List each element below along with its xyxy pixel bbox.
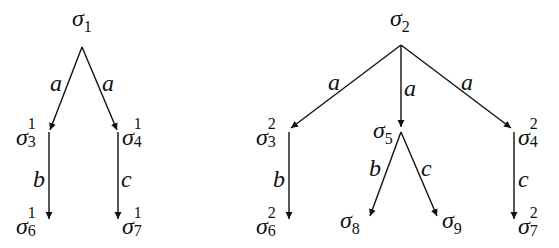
edge-label-a-mid-t2: a — [404, 76, 416, 100]
node-sigma4-1: σ14 — [122, 125, 146, 149]
edge-label-a-left-t1: a — [50, 71, 62, 95]
node-sigma5: σ5 — [373, 118, 393, 147]
edge-label-c-t1: c — [121, 167, 132, 191]
edge-label-a-right-t2: a — [461, 70, 473, 94]
node-sigma2: σ2 — [390, 6, 410, 35]
edge-label-c-right-t2: c — [518, 167, 529, 191]
edge-label-c-mid-t2: c — [421, 156, 432, 180]
edge-s2-s4 — [401, 45, 511, 128]
edge-s2-s3 — [291, 45, 401, 128]
node-sigma4-2: σ24 — [518, 125, 542, 149]
node-sigma1: σ1 — [72, 6, 92, 35]
node-sigma7-2: σ27 — [518, 214, 542, 238]
node-sigma7-1: σ17 — [122, 214, 146, 238]
node-sigma8: σ8 — [340, 208, 360, 237]
edge-label-a-right-t1: a — [102, 71, 114, 95]
node-sigma6-1: σ16 — [16, 214, 40, 238]
edge-label-a-left-t2: a — [328, 70, 340, 94]
node-sigma3-2: σ23 — [256, 125, 280, 149]
edge-label-b-t1: b — [33, 167, 45, 191]
edge-label-b-mid-t2: b — [369, 156, 381, 180]
node-sigma3-1: σ13 — [16, 125, 40, 149]
node-sigma9: σ9 — [442, 208, 462, 237]
edge-label-b-left-t2: b — [273, 167, 285, 191]
node-sigma6-2: σ26 — [256, 214, 280, 238]
